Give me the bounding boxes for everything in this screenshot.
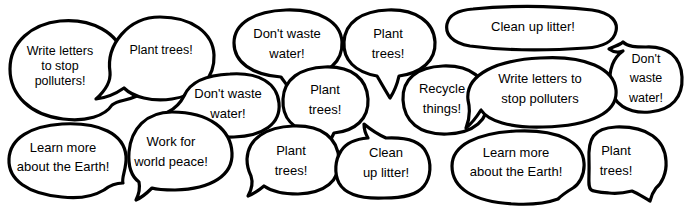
bubble-label-plant-trees-5: Plant trees! — [600, 141, 633, 181]
bubble-label-write-letters-2: Write letters to stop polluters — [498, 69, 582, 109]
bubble-label-clean-up-litter-2: Clean up litter! — [363, 143, 409, 183]
bubble-label-dont-waste-water-1: Don't waste water! — [253, 24, 321, 64]
bubble-labels-layer: Write letters to stop polluters! Plant t… — [0, 0, 689, 214]
bubble-label-dont-waste-water-3: Don't waste water! — [194, 84, 262, 124]
bubble-label-plant-trees-3: Plant trees! — [309, 80, 342, 120]
bubble-label-learn-more-2: Learn more about the Earth! — [470, 144, 563, 182]
bubble-label-plant-trees-1: Plant trees! — [129, 43, 192, 58]
bubble-label-learn-more-1: Learn more about the Earth! — [17, 139, 110, 177]
bubble-label-recycle-things-1: Recycle things! — [419, 79, 465, 119]
bubble-label-clean-up-litter-1: Clean up litter! — [491, 19, 575, 34]
speech-bubble-collage: Write letters to stop polluters! Plant t… — [0, 0, 689, 214]
bubble-label-plant-trees-2: Plant trees! — [372, 24, 405, 64]
bubble-label-dont-waste-water-2: Don't waste water! — [625, 50, 668, 108]
bubble-label-write-letters-1: Write letters to stop polluters! — [27, 44, 93, 88]
bubble-label-work-for-peace-1: Work for world peace! — [134, 132, 208, 172]
bubble-label-plant-trees-4: Plant trees! — [275, 141, 308, 181]
